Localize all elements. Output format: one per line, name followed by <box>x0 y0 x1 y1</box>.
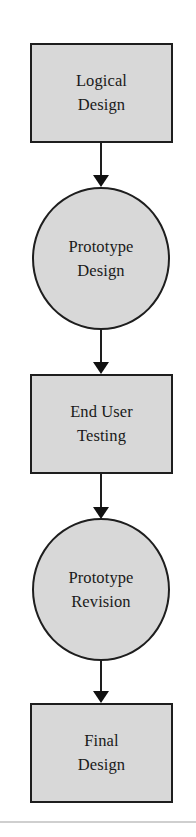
arrow-down-icon <box>93 175 109 187</box>
node-logical-design: Logical Design <box>30 43 173 143</box>
node-label: Logical Design <box>76 69 127 117</box>
node-label: Prototype Revision <box>68 566 133 614</box>
node-label: End User Testing <box>70 400 133 448</box>
arrow-down-icon <box>93 362 109 374</box>
connector-line <box>100 329 102 363</box>
connector-line <box>100 473 102 509</box>
arrow-down-icon <box>93 691 109 703</box>
node-label: Prototype Design <box>68 235 133 283</box>
connector-line <box>100 142 102 176</box>
node-end-user-testing: End User Testing <box>30 374 173 474</box>
connector-line <box>100 660 102 693</box>
node-final-design: Final Design <box>30 703 173 803</box>
node-label: Final Design <box>78 729 125 777</box>
node-prototype-design: Prototype Design <box>32 187 170 330</box>
node-prototype-revision: Prototype Revision <box>32 518 170 661</box>
bottom-divider <box>0 821 196 823</box>
